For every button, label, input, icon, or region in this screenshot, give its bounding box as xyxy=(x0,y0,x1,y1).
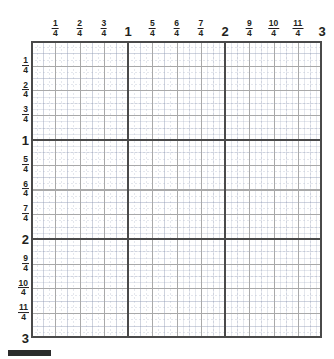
axis-tick-fraction: 104 xyxy=(18,279,29,298)
fraction-numerator: 10 xyxy=(18,279,29,288)
x-tick-label: 2 xyxy=(221,23,228,39)
x-tick-label: 1 xyxy=(124,23,131,39)
eighth-gridlines xyxy=(31,41,322,338)
y-tick-label: 104 xyxy=(18,279,29,299)
axis-tick-fraction: 34 xyxy=(22,105,29,124)
fraction-numerator: 11 xyxy=(292,19,303,28)
y-tick-label: 94 xyxy=(22,254,29,274)
x-tick-label: 14 xyxy=(52,19,59,39)
axis-tick-fraction: 34 xyxy=(100,19,107,38)
fraction-numerator: 3 xyxy=(100,19,107,28)
axis-tick-value: 1 xyxy=(22,134,29,147)
y-tick-label: 34 xyxy=(22,105,29,125)
y-tick-label: 2 xyxy=(22,231,29,247)
x-tick-label: 64 xyxy=(173,19,180,39)
y-tick-label: 54 xyxy=(22,155,29,175)
fraction-numerator: 11 xyxy=(18,303,29,312)
fraction-denominator: 4 xyxy=(22,263,29,273)
fraction-denominator: 4 xyxy=(22,164,29,174)
axis-tick-fraction: 54 xyxy=(149,19,156,38)
unit-gridlines xyxy=(31,41,322,338)
fraction-numerator: 6 xyxy=(173,19,180,28)
fraction-denominator: 4 xyxy=(22,65,29,75)
fraction-numerator: 5 xyxy=(149,19,156,28)
axis-tick-fraction: 74 xyxy=(197,19,204,38)
x-tick-label: 74 xyxy=(197,19,204,39)
worksheet-canvas: 14243415464742941041143 1424341546474294… xyxy=(0,0,334,359)
fraction-denominator: 4 xyxy=(76,28,83,38)
horizontal-unit-line xyxy=(31,238,322,240)
fraction-numerator: 1 xyxy=(52,19,59,28)
fraction-numerator: 6 xyxy=(22,180,29,189)
x-tick-label: 104 xyxy=(268,19,279,39)
fraction-denominator: 4 xyxy=(149,28,156,38)
vertical-unit-line xyxy=(127,41,129,338)
x-tick-label: 114 xyxy=(292,19,303,39)
fraction-denominator: 4 xyxy=(246,28,253,38)
axis-tick-value: 1 xyxy=(124,25,131,38)
vertical-unit-line xyxy=(224,41,226,338)
y-tick-label: 114 xyxy=(18,303,29,323)
y-tick-label: 3 xyxy=(22,330,29,346)
fraction-denominator: 4 xyxy=(52,28,59,38)
axis-tick-value: 2 xyxy=(22,233,29,246)
bottom-rule-mark xyxy=(8,350,51,356)
axis-tick-fraction: 14 xyxy=(52,19,59,38)
axis-tick-fraction: 54 xyxy=(22,155,29,174)
left-axis-labels: 14243415464742941041143 xyxy=(0,0,29,359)
fraction-numerator: 10 xyxy=(268,19,279,28)
fraction-numerator: 2 xyxy=(76,19,83,28)
axis-tick-fraction: 104 xyxy=(268,19,279,38)
fraction-denominator: 4 xyxy=(22,213,29,223)
x-tick-label: 54 xyxy=(149,19,156,39)
axis-tick-fraction: 94 xyxy=(246,19,253,38)
x-tick-label: 34 xyxy=(100,19,107,39)
fraction-numerator: 3 xyxy=(22,105,29,114)
y-tick-label: 64 xyxy=(22,180,29,200)
y-tick-label: 1 xyxy=(22,132,29,148)
fraction-denominator: 4 xyxy=(100,28,107,38)
fraction-numerator: 2 xyxy=(22,81,29,90)
axis-tick-value: 3 xyxy=(318,25,325,38)
axis-tick-fraction: 94 xyxy=(22,254,29,273)
quarter-gridlines xyxy=(31,41,322,338)
y-tick-label: 14 xyxy=(22,56,29,76)
sixteenth-gridlines xyxy=(31,41,322,338)
axis-tick-fraction: 114 xyxy=(18,303,29,322)
axis-tick-fraction: 74 xyxy=(22,204,29,223)
x-tick-label: 3 xyxy=(318,23,325,39)
fraction-denominator: 4 xyxy=(22,89,29,99)
axis-tick-fraction: 114 xyxy=(292,19,303,38)
fraction-denominator: 4 xyxy=(18,287,29,297)
y-tick-label: 74 xyxy=(22,204,29,224)
fraction-numerator: 5 xyxy=(22,155,29,164)
fraction-numerator: 1 xyxy=(22,56,29,65)
axis-tick-fraction: 24 xyxy=(22,81,29,100)
x-tick-label: 94 xyxy=(246,19,253,39)
x-tick-label: 24 xyxy=(76,19,83,39)
axis-tick-fraction: 64 xyxy=(22,180,29,199)
fraction-numerator: 9 xyxy=(246,19,253,28)
y-tick-label: 24 xyxy=(22,81,29,101)
fraction-denominator: 4 xyxy=(197,28,204,38)
fraction-denominator: 4 xyxy=(173,28,180,38)
axis-tick-fraction: 24 xyxy=(76,19,83,38)
fraction-numerator: 7 xyxy=(197,19,204,28)
axis-tick-value: 3 xyxy=(22,332,29,345)
fraction-denominator: 4 xyxy=(22,114,29,124)
horizontal-unit-line xyxy=(31,139,322,141)
fraction-numerator: 7 xyxy=(22,204,29,213)
fraction-denominator: 4 xyxy=(292,28,303,38)
fraction-denominator: 4 xyxy=(22,188,29,198)
fraction-denominator: 4 xyxy=(268,28,279,38)
fraction-denominator: 4 xyxy=(18,312,29,322)
axis-tick-fraction: 14 xyxy=(22,56,29,75)
fraction-numerator: 9 xyxy=(22,254,29,263)
axis-tick-fraction: 64 xyxy=(173,19,180,38)
top-axis-labels: 14243415464742941041143 xyxy=(0,14,334,39)
coordinate-grid[interactable] xyxy=(31,41,322,338)
axis-tick-value: 2 xyxy=(221,25,228,38)
